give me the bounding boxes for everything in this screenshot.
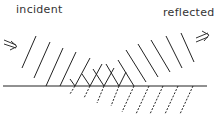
incident-wavefront	[46, 48, 63, 86]
refracted-wavefront	[84, 86, 90, 98]
incident-wavefront	[60, 52, 76, 86]
refracted-wavefront	[122, 86, 134, 112]
reflected-arrow-icon	[196, 31, 209, 42]
refracted-wavefront	[97, 86, 104, 103]
incident-wavefront	[22, 36, 36, 68]
incident-wavefront	[119, 72, 126, 86]
refracted-wavefront	[180, 86, 193, 114]
incident-arrow-icon	[4, 40, 17, 50]
refracted-wavefront	[70, 86, 75, 94]
refracted-wavefront	[165, 86, 178, 114]
refracted-wavefront	[111, 86, 119, 106]
refracted-wavefronts	[70, 86, 193, 114]
incident-wavefront	[90, 64, 102, 86]
wave-reflection-diagram	[0, 0, 217, 127]
reflected-wavefront	[70, 79, 75, 86]
reflected-wavefront	[106, 64, 119, 86]
incident-wavefront	[34, 42, 50, 78]
reflected-wavefront	[82, 74, 90, 86]
reflected-wavefront	[138, 44, 158, 77]
refracted-wavefront	[150, 86, 163, 114]
reflected-wavefront	[151, 40, 170, 72]
reflected-wavefronts	[70, 33, 194, 86]
incident-wavefront	[104, 68, 114, 86]
refracted-wavefront	[136, 86, 149, 114]
reflected-wavefront	[166, 36, 182, 68]
reflected-wavefront	[181, 33, 194, 62]
incident-wavefronts	[22, 36, 126, 86]
incident-label: incident	[16, 3, 63, 16]
reflected-label: reflected	[163, 6, 215, 19]
